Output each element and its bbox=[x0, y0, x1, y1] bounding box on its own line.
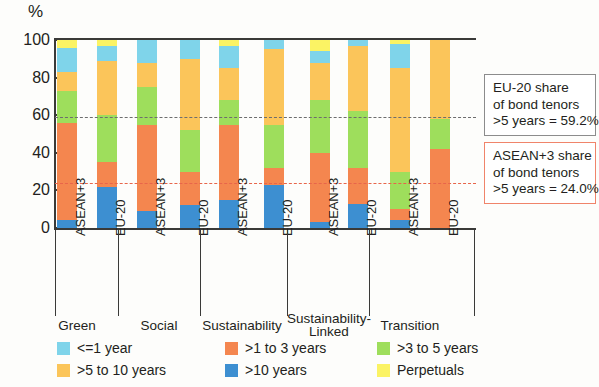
bar-segment[interactable] bbox=[180, 59, 200, 130]
bar-label-eu20: EU-20 bbox=[113, 200, 128, 236]
bar-segment[interactable] bbox=[137, 63, 157, 87]
bar-segment[interactable] bbox=[390, 44, 410, 68]
bar-segment[interactable] bbox=[310, 63, 330, 101]
y-axis-tick-80: 80 bbox=[32, 69, 50, 87]
bar-segment[interactable] bbox=[97, 61, 117, 116]
category-label: Transition bbox=[355, 318, 465, 333]
bar-segment[interactable] bbox=[310, 100, 330, 153]
legend-item[interactable]: >10 years bbox=[225, 362, 307, 378]
bar-label-eu20: EU-20 bbox=[364, 200, 379, 236]
y-axis-tick-labels: 100806040200 bbox=[0, 40, 50, 228]
legend-label: <=1 year bbox=[77, 340, 132, 356]
bar-segment[interactable] bbox=[137, 87, 157, 125]
callout-asean3-line3: >5 years = 24.0% bbox=[493, 181, 589, 198]
y-axis-tick-100: 100 bbox=[23, 31, 50, 49]
bar-label-asean3: ASEAN+3 bbox=[326, 178, 341, 236]
legend-item[interactable]: Perpetuals bbox=[377, 362, 464, 378]
callout-eu20-line2: of bond tenors bbox=[493, 97, 589, 114]
legend-label: >10 years bbox=[245, 362, 307, 378]
bar-segment[interactable] bbox=[264, 49, 284, 124]
callout-asean3-line2: of bond tenors bbox=[493, 165, 589, 182]
bar-segment[interactable] bbox=[57, 72, 77, 91]
category-separator bbox=[474, 230, 475, 316]
bar-segment[interactable] bbox=[97, 46, 117, 61]
legend-item[interactable]: >1 to 3 years bbox=[225, 340, 326, 356]
legend-label: Perpetuals bbox=[397, 362, 464, 378]
bar-label-eu20: EU-20 bbox=[196, 200, 211, 236]
legend-swatch bbox=[225, 364, 238, 377]
category-separator bbox=[118, 230, 119, 316]
category-separator bbox=[369, 230, 370, 316]
bar-segment[interactable] bbox=[348, 46, 368, 112]
callout-eu20-line3: >5 years = 59.2% bbox=[493, 113, 589, 130]
bar-segment[interactable] bbox=[430, 40, 450, 119]
legend-swatch bbox=[377, 342, 390, 355]
callout-eu20-line1: EU-20 share bbox=[493, 80, 589, 97]
bar-segment[interactable] bbox=[137, 40, 157, 63]
y-axis-tick-0: 0 bbox=[41, 219, 50, 237]
legend-item[interactable]: <=1 year bbox=[57, 340, 132, 356]
bar-segment[interactable] bbox=[310, 40, 330, 51]
bar-segment[interactable] bbox=[219, 46, 239, 69]
legend-swatch bbox=[57, 342, 70, 355]
bar-segment[interactable] bbox=[57, 91, 77, 123]
bar-segment[interactable] bbox=[97, 115, 117, 162]
bar-segment[interactable] bbox=[390, 68, 410, 171]
bar-segment[interactable] bbox=[348, 168, 368, 204]
legend-label: >3 to 5 years bbox=[397, 340, 478, 356]
legend-swatch bbox=[377, 364, 390, 377]
y-axis-unit-label: % bbox=[28, 2, 43, 22]
bar-label-asean3: ASEAN+3 bbox=[235, 178, 250, 236]
category-separator bbox=[287, 230, 288, 316]
y-axis-tick-20: 20 bbox=[32, 181, 50, 199]
callout-asean3-line1: ASEAN+3 share bbox=[493, 148, 589, 165]
y-axis-tick-60: 60 bbox=[32, 106, 50, 124]
bar-segment[interactable] bbox=[348, 111, 368, 167]
legend-label: >5 to 10 years bbox=[77, 362, 166, 378]
bar-segment[interactable] bbox=[219, 100, 239, 124]
legend-label: >1 to 3 years bbox=[245, 340, 326, 356]
reference-line-eu20 bbox=[55, 117, 476, 118]
legend-swatch bbox=[57, 364, 70, 377]
legend-item[interactable]: >3 to 5 years bbox=[377, 340, 478, 356]
bar-segment[interactable] bbox=[219, 68, 239, 100]
bar-segment[interactable] bbox=[310, 51, 330, 62]
chart-legend: <=1 year>1 to 3 years>3 to 5 years>5 to … bbox=[57, 340, 477, 384]
bar-label-asean3: ASEAN+3 bbox=[153, 178, 168, 236]
y-axis-tick-40: 40 bbox=[32, 144, 50, 162]
bar-segment[interactable] bbox=[57, 40, 77, 48]
category-separator bbox=[200, 230, 201, 316]
bar-label-asean3: ASEAN+3 bbox=[73, 178, 88, 236]
legend-item[interactable]: >5 to 10 years bbox=[57, 362, 166, 378]
bar-label-eu20: EU-20 bbox=[446, 200, 461, 236]
bar-segment[interactable] bbox=[57, 48, 77, 72]
callout-eu20: EU-20 share of bond tenors >5 years = 59… bbox=[484, 74, 596, 136]
bar-segment[interactable] bbox=[180, 40, 200, 59]
callout-asean3: ASEAN+3 share of bond tenors >5 years = … bbox=[484, 142, 596, 204]
bar-segment[interactable] bbox=[430, 119, 450, 149]
bar-segment[interactable] bbox=[180, 130, 200, 171]
legend-swatch bbox=[225, 342, 238, 355]
bar-segment[interactable] bbox=[264, 125, 284, 168]
bar-segment[interactable] bbox=[264, 40, 284, 49]
bar-label-asean3: ASEAN+3 bbox=[406, 178, 421, 236]
category-separator bbox=[55, 230, 56, 316]
chart-figure: % 100806040200 ASEAN+3EU-20ASEAN+3EU-20A… bbox=[0, 0, 599, 387]
